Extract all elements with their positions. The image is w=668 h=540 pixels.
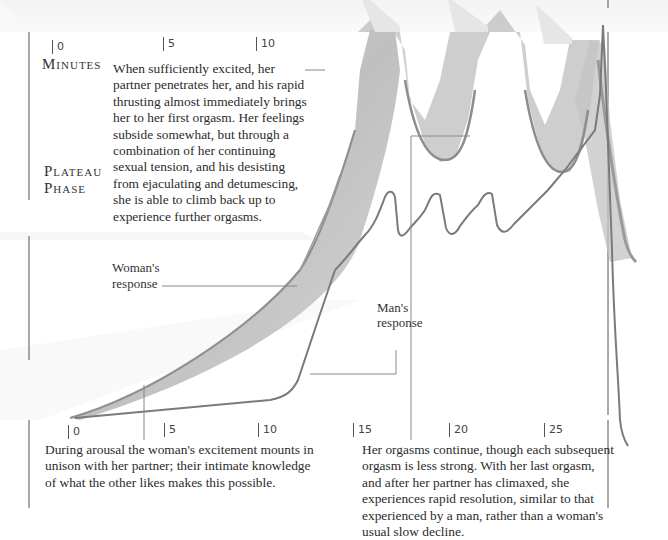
tick-top-0: 0 — [52, 40, 64, 54]
axis-label-minutes: Minutes — [42, 56, 101, 72]
phase-label-line1: Plateau — [44, 163, 102, 179]
tick-bottom-5: 5 — [164, 423, 176, 437]
phase-label-line2: Phase — [44, 180, 86, 196]
tick-top-10: 10 — [256, 37, 275, 51]
tick-top-5: 5 — [163, 37, 175, 51]
tick-bottom-15: 15 — [353, 423, 372, 437]
label-man-line2: response — [377, 315, 423, 330]
tick-bottom-25: 25 — [544, 423, 563, 437]
annotation-resolution: Her orgasms continue, though each subseq… — [362, 442, 614, 540]
annotation-arousal: During arousal the woman's excitement mo… — [45, 442, 315, 491]
tick-bottom-10: 10 — [258, 423, 277, 437]
top-plane — [0, 0, 668, 32]
annotation-plateau: When sufficiently excited, her partner p… — [113, 61, 313, 225]
tick-bottom-20: 20 — [449, 423, 468, 437]
label-woman-line1: Woman's — [112, 260, 160, 275]
label-man-line1: Man's — [377, 300, 408, 315]
tick-bottom-0: 0 — [68, 425, 80, 439]
label-woman-line2: response — [112, 276, 158, 291]
